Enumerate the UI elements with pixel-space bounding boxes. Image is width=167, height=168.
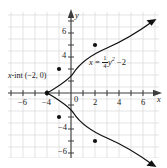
- point-2-4: [93, 43, 97, 47]
- equation-annotation: x = 14y2 −2: [89, 55, 126, 69]
- y-tick-label-neg4: −4: [58, 123, 67, 132]
- y-tick-label-4: 4: [62, 51, 66, 60]
- x-intercept-annotation: x-int (−2, 0): [8, 72, 47, 80]
- equation-lhs: x: [89, 57, 93, 67]
- point-vertex: [45, 91, 50, 96]
- point-neg1-neg2: [57, 115, 61, 119]
- point-neg1-2: [57, 67, 61, 71]
- x-axis-label: x: [157, 95, 161, 104]
- x-tick-label-6: 6: [141, 98, 145, 107]
- x-tick-label-2: 2: [93, 98, 97, 107]
- equation-equals: =: [95, 57, 100, 67]
- equation-fraction: 14: [102, 55, 107, 69]
- y-axis: [68, 9, 74, 158]
- equation-exponent: 2: [112, 56, 115, 62]
- y-tick-label-neg6: −6: [58, 147, 67, 156]
- grid-lines: [8, 12, 159, 158]
- point-2-neg4: [93, 139, 97, 143]
- y-tick-label-6: 6: [62, 27, 66, 36]
- x-intercept-text: -int (−2, 0): [12, 71, 47, 80]
- x-axis: [8, 90, 162, 96]
- x-tick-label-neg6: −6: [18, 98, 27, 107]
- x-tick-label-0: 0: [74, 95, 78, 104]
- x-tick-label-neg4: −4: [42, 98, 51, 107]
- graph-figure: y x −6 −4 0 2 4 6 6 4 −4 −6 x-int (−2, 0…: [0, 0, 167, 168]
- coordinate-plane-svg: [0, 0, 167, 168]
- fraction-denominator: 4: [102, 62, 107, 70]
- equation-constant: 2: [122, 57, 126, 67]
- y-axis-label: y: [75, 11, 79, 20]
- x-tick-label-4: 4: [117, 98, 121, 107]
